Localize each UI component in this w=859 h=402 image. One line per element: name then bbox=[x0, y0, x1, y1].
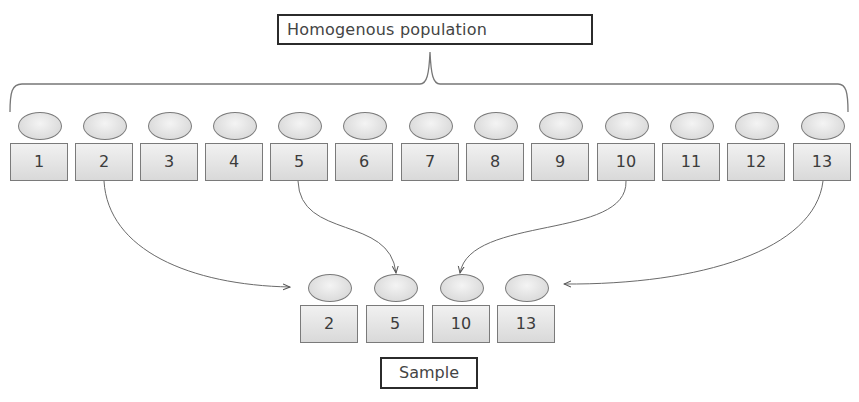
unit-box: 5 bbox=[270, 143, 328, 181]
unit-box: 2 bbox=[75, 143, 133, 181]
unit-box: 13 bbox=[497, 305, 555, 343]
unit-ellipse bbox=[474, 112, 518, 140]
unit-ellipse bbox=[148, 112, 192, 140]
unit-box: 5 bbox=[366, 305, 424, 343]
unit-box: 6 bbox=[335, 143, 393, 181]
unit-box: 4 bbox=[205, 143, 263, 181]
unit-box: 10 bbox=[597, 143, 655, 181]
unit-ellipse bbox=[409, 112, 453, 140]
arrow-5-to-sample bbox=[298, 181, 396, 273]
unit-box: 12 bbox=[727, 143, 785, 181]
sample-label: Sample bbox=[380, 357, 478, 389]
unit-box: 8 bbox=[466, 143, 524, 181]
connector-layer bbox=[0, 0, 859, 402]
unit-ellipse bbox=[83, 112, 127, 140]
unit-ellipse bbox=[735, 112, 779, 140]
unit-ellipse bbox=[801, 112, 845, 140]
unit-ellipse bbox=[539, 112, 583, 140]
arrow-13-to-sample bbox=[564, 181, 823, 284]
unit-box: 9 bbox=[531, 143, 589, 181]
unit-ellipse bbox=[18, 112, 62, 140]
unit-ellipse bbox=[374, 274, 418, 302]
arrow-2-to-sample bbox=[104, 181, 290, 287]
unit-ellipse bbox=[440, 274, 484, 302]
unit-box: 13 bbox=[793, 143, 851, 181]
unit-box: 10 bbox=[432, 305, 490, 343]
unit-ellipse bbox=[343, 112, 387, 140]
arrow-10-to-sample bbox=[460, 181, 626, 273]
population-bracket bbox=[10, 52, 848, 112]
unit-ellipse bbox=[308, 274, 352, 302]
unit-ellipse bbox=[670, 112, 714, 140]
unit-box: 7 bbox=[401, 143, 459, 181]
unit-box: 11 bbox=[662, 143, 720, 181]
unit-ellipse bbox=[278, 112, 322, 140]
unit-ellipse bbox=[213, 112, 257, 140]
unit-box: 3 bbox=[140, 143, 198, 181]
unit-ellipse bbox=[605, 112, 649, 140]
unit-box: 1 bbox=[10, 143, 68, 181]
unit-box: 2 bbox=[300, 305, 358, 343]
unit-ellipse bbox=[505, 274, 549, 302]
